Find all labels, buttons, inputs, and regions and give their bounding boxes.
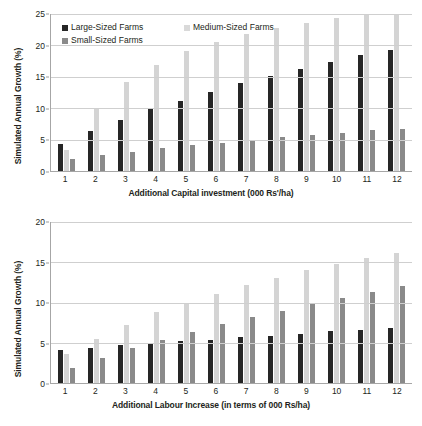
y-tick-mark xyxy=(46,140,49,141)
x-tick-label: 3 xyxy=(110,174,140,184)
legend-item-large[interactable]: Large-Sized Farms xyxy=(62,22,184,33)
legend-item-small[interactable]: Small-Sized Farms xyxy=(62,35,184,46)
bar-large xyxy=(328,331,333,383)
x-tick-label: 7 xyxy=(231,386,261,396)
x-tick-label: 2 xyxy=(80,386,110,396)
y-axis-ticks: 0510152025 xyxy=(27,14,49,172)
bar-small xyxy=(220,324,225,383)
bar-large xyxy=(388,50,393,171)
x-tick-label: 1 xyxy=(50,386,80,396)
bar-small xyxy=(250,140,255,171)
bar-large xyxy=(238,83,243,171)
bar-medium xyxy=(154,312,159,383)
bar-medium xyxy=(364,258,369,383)
bar-small xyxy=(280,137,285,171)
bar-medium xyxy=(64,150,69,171)
bar-large xyxy=(88,131,93,171)
bar-medium xyxy=(154,65,159,171)
gridline xyxy=(51,77,412,78)
bar-medium xyxy=(334,264,339,383)
bar-medium xyxy=(64,354,69,383)
x-tick-label: 6 xyxy=(201,386,231,396)
bar-medium xyxy=(244,285,249,383)
bar-small xyxy=(370,130,375,171)
bar-group xyxy=(382,14,412,171)
x-axis-title: Additional Labour Increase (in terms of … xyxy=(0,400,422,410)
y-tick-mark xyxy=(46,108,49,109)
x-tick-label: 8 xyxy=(261,386,291,396)
bar-small xyxy=(100,155,105,171)
y-axis-ticks: 05101520 xyxy=(27,222,49,384)
x-tick-label: 8 xyxy=(261,174,291,184)
x-tick-label: 12 xyxy=(382,386,412,396)
x-tick-label: 12 xyxy=(382,174,412,184)
bar-small xyxy=(130,348,135,383)
bar-small xyxy=(190,332,195,383)
bar-medium xyxy=(214,42,219,171)
bar-large xyxy=(118,120,123,171)
bar-medium xyxy=(124,325,129,383)
y-tick-label: 10 xyxy=(36,298,45,308)
bar-small xyxy=(70,159,75,171)
bar-medium xyxy=(184,51,189,171)
x-axis-labels: 123456789101112 xyxy=(50,174,412,184)
bar-large xyxy=(298,334,303,383)
bar-small xyxy=(130,152,135,171)
y-tick-label: 0 xyxy=(40,379,45,389)
bar-large xyxy=(178,101,183,171)
y-tick-mark xyxy=(46,384,49,385)
bar-small xyxy=(400,286,405,383)
bar-medium xyxy=(394,253,399,383)
bar-small xyxy=(280,311,285,383)
y-tick-label: 5 xyxy=(40,135,45,145)
bar-small xyxy=(370,292,375,383)
chart-labour-increase: Simulated Annual Growth (%) 05101520 123… xyxy=(0,212,422,426)
gridline xyxy=(51,140,412,141)
bar-small xyxy=(340,133,345,171)
legend-swatch-icon xyxy=(62,38,68,44)
bar-large xyxy=(238,337,243,383)
y-tick-label: 5 xyxy=(40,339,45,349)
y-tick-label: 10 xyxy=(36,104,45,114)
bar-large xyxy=(208,340,213,383)
gridline xyxy=(51,108,412,109)
bar-medium xyxy=(124,82,129,171)
x-tick-label: 7 xyxy=(231,174,261,184)
y-axis-title: Simulated Annual Growth (%) xyxy=(9,212,27,426)
bar-large xyxy=(358,330,363,383)
x-tick-label: 11 xyxy=(352,174,382,184)
y-tick-mark xyxy=(46,172,49,173)
x-tick-label: 2 xyxy=(80,174,110,184)
x-tick-label: 5 xyxy=(171,386,201,396)
gridline xyxy=(51,303,412,304)
y-tick-label: 20 xyxy=(36,217,45,227)
x-axis-title: Additional Capital investment (000 Rs'/h… xyxy=(0,188,422,198)
y-tick-label: 0 xyxy=(40,167,45,177)
y-tick-mark xyxy=(46,14,49,15)
legend-label: Large-Sized Farms xyxy=(71,22,143,33)
legend-swatch-icon xyxy=(184,25,190,31)
bar-large xyxy=(268,76,273,171)
y-tick-mark xyxy=(46,262,49,263)
bar-large xyxy=(358,55,363,171)
gridline xyxy=(51,262,412,263)
bar-medium xyxy=(394,14,399,171)
bar-medium xyxy=(274,28,279,171)
y-tick-mark xyxy=(46,45,49,46)
x-tick-label: 3 xyxy=(110,386,140,396)
bar-small xyxy=(400,129,405,171)
chart-legend: Large-Sized FarmsMedium-Sized FarmsSmall… xyxy=(62,22,312,46)
bar-large xyxy=(118,345,123,383)
figure-container: Simulated Annual Growth (%) 0510152025 1… xyxy=(0,0,422,426)
legend-item-medium[interactable]: Medium-Sized Farms xyxy=(184,22,306,33)
bar-medium xyxy=(304,270,309,383)
x-tick-label: 4 xyxy=(141,174,171,184)
bar-small xyxy=(190,145,195,171)
legend-label: Small-Sized Farms xyxy=(71,35,143,46)
bar-medium xyxy=(94,339,99,383)
bar-medium xyxy=(364,14,369,171)
bar-large xyxy=(388,328,393,383)
bar-large xyxy=(148,344,153,383)
bar-small xyxy=(160,340,165,383)
bar-small xyxy=(160,148,165,171)
